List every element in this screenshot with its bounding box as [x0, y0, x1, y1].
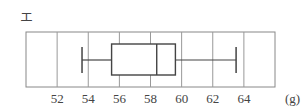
iqr-box — [112, 44, 176, 75]
box-plot-chart: 52545658606264(g) — [0, 0, 302, 112]
x-tick-label: 60 — [175, 91, 188, 106]
x-tick-label: 54 — [82, 91, 96, 106]
unit-label: (g) — [285, 91, 300, 106]
x-tick-label: 56 — [113, 91, 127, 106]
x-tick-label: 62 — [206, 91, 219, 106]
x-tick-label: 52 — [51, 91, 64, 106]
x-tick-label: 58 — [144, 91, 157, 106]
x-tick-label: 64 — [237, 91, 251, 106]
